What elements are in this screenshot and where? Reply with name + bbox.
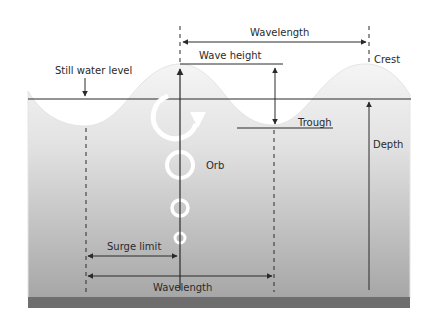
wave-diagram: Wavelength Wave height Crest Still water…	[0, 0, 433, 330]
wave-height-label: Wave height	[199, 50, 262, 61]
seabed	[28, 297, 410, 308]
still-water-level-label: Still water level	[55, 65, 132, 76]
wavelength-bottom-label: Wavelength	[153, 282, 212, 293]
trough-label: Trough	[297, 117, 332, 128]
orb-label: Orb	[206, 160, 224, 171]
depth-label: Depth	[373, 139, 403, 150]
surge-limit-label: Surge limit	[107, 241, 161, 252]
wavelength-top-label: Wavelength	[250, 27, 309, 38]
crest-label: Crest	[374, 54, 400, 65]
